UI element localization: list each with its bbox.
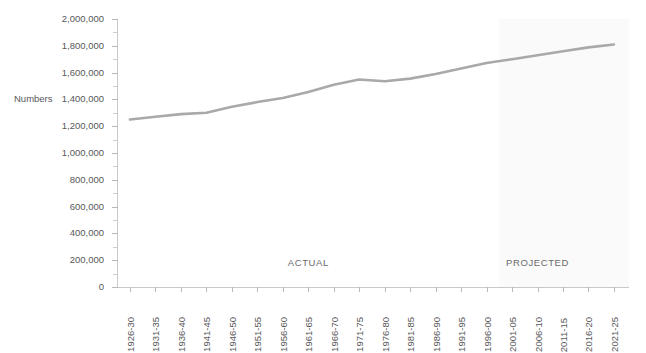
projected-region-label: PROJECTED (506, 257, 569, 268)
chart-container: Numbers 2,000,0001,800,0001,600,0001,400… (0, 0, 646, 353)
series-line-numbers (130, 44, 614, 119)
actual-region-label: ACTUAL (288, 257, 329, 268)
data-line-svg (0, 0, 646, 353)
